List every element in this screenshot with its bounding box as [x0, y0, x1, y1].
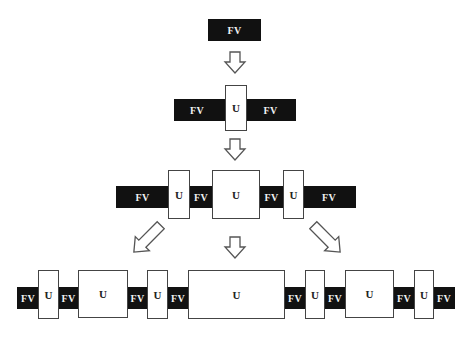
arrow-down-icon [225, 139, 245, 160]
arrow-down-left-icon [127, 218, 168, 259]
arrow-down-icon [225, 52, 245, 73]
arrow-down-icon [225, 237, 245, 258]
arrows-layer [0, 0, 470, 338]
arrow-down-right-icon [306, 218, 347, 259]
